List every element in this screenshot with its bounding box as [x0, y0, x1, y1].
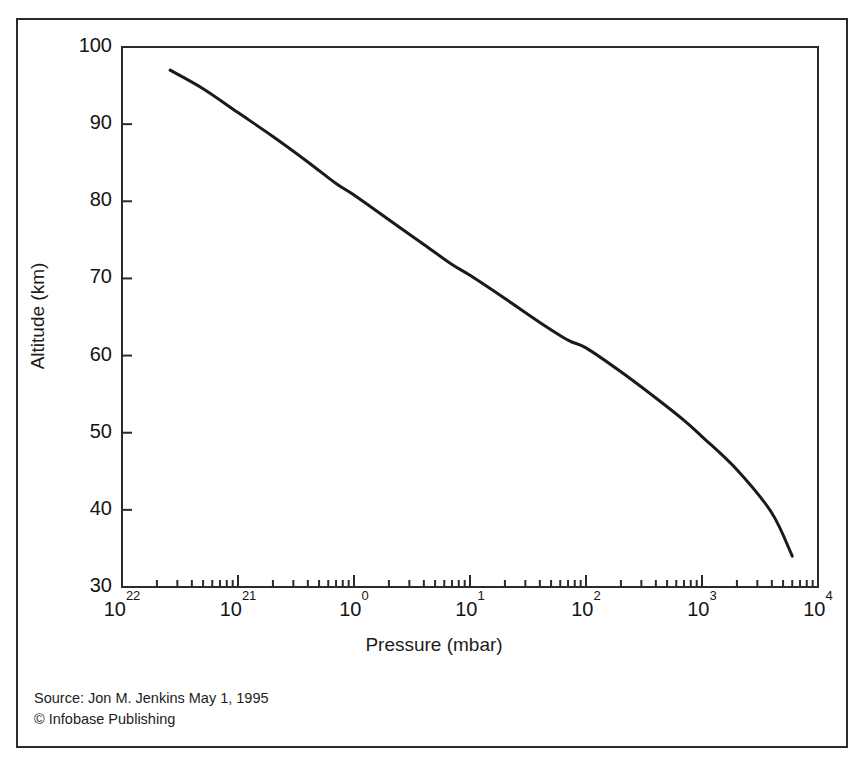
x-tick-label: 103 [657, 596, 747, 621]
y-tick-label: 30 [52, 574, 112, 597]
source-credit: Source: Jon M. Jenkins May 1, 1995 © Inf… [34, 688, 269, 731]
source-line: Source: Jon M. Jenkins May 1, 1995 [34, 688, 269, 709]
y-tick-label: 60 [52, 343, 112, 366]
x-tick-label: 100 [309, 596, 399, 621]
y-tick-label: 40 [52, 497, 112, 520]
y-tick-label: 50 [52, 420, 112, 443]
y-tick-label: 100 [52, 34, 112, 57]
x-tick-label: 1021 [193, 596, 283, 621]
y-tick-label: 70 [52, 265, 112, 288]
x-tick-label: 104 [773, 596, 863, 621]
y-tick-label: 80 [52, 188, 112, 211]
x-tick-label: 101 [425, 596, 515, 621]
x-tick-label: 102 [541, 596, 631, 621]
y-tick-label: 90 [52, 111, 112, 134]
copyright-line: © Infobase Publishing [34, 709, 269, 730]
x-axis-title: Pressure (mbar) [0, 634, 868, 656]
x-tick-label: 1022 [77, 596, 167, 621]
y-axis-title: Altitude (km) [27, 216, 49, 416]
